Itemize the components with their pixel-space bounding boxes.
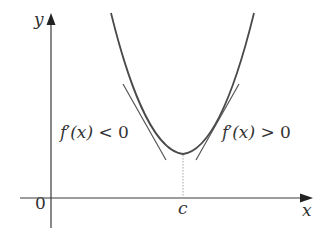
left-value: 0 (118, 122, 129, 142)
right-argument: (x) (232, 122, 255, 142)
y-axis-label: y (33, 9, 44, 29)
x-axis (20, 194, 313, 203)
right-derivative-label: f′(x) > 0 (220, 122, 291, 142)
right-relation: > (255, 122, 280, 142)
derivative-sign-diagram: y x 0 c f′(x) < 0 f′(x) > 0 (0, 0, 331, 236)
x-axis-label: x (302, 200, 312, 220)
y-axis (47, 13, 56, 228)
left-tangent-line (123, 84, 166, 160)
left-derivative-label: f′(x) < 0 (58, 122, 129, 142)
origin-label: 0 (35, 193, 46, 213)
c-tick-label: c (178, 198, 188, 218)
left-argument: (x) (70, 122, 93, 142)
y-axis-arrowhead-icon (47, 13, 56, 25)
left-relation: < (93, 122, 118, 142)
right-value: 0 (280, 122, 291, 142)
